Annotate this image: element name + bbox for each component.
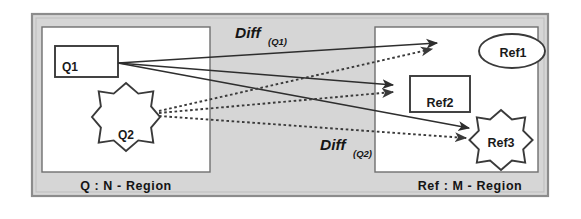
ref3-shape[interactable]: Ref3 — [469, 110, 532, 170]
diff-q1-main: Diff — [235, 24, 262, 41]
q1-label: Q1 — [62, 60, 78, 74]
q1-shape[interactable]: Q1 — [55, 46, 118, 77]
diff-q1-sub: (Q1) — [268, 36, 287, 47]
ref1-label: Ref1 — [499, 46, 526, 60]
reference-panel-label: Ref : M - Region — [418, 179, 523, 193]
q2-shape[interactable]: Q2 — [92, 83, 160, 151]
ref2-label: Ref2 — [426, 96, 453, 110]
diff-q2-sub: (Q2) — [353, 148, 372, 159]
q2-label: Q2 — [118, 128, 134, 142]
ref2-shape[interactable]: Ref2 — [410, 76, 470, 112]
query-panel-label: Q : N - Region — [80, 179, 172, 193]
ref3-label: Ref3 — [487, 136, 514, 150]
diff-q2-main: Diff — [320, 136, 347, 153]
diagram-canvas: Q : N - Region Ref : M - Region Q1 Q2 Re… — [0, 0, 581, 219]
figure-container: Q : N - Region Ref : M - Region Q1 Q2 Re… — [0, 0, 581, 219]
ref1-shape[interactable]: Ref1 — [479, 34, 545, 68]
